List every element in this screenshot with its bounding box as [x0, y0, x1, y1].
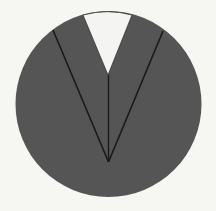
circle-diagram: [0, 0, 216, 211]
